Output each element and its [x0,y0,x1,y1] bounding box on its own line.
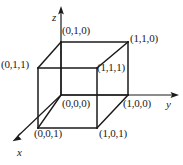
vertex-label-111: (1,1,1) [97,62,125,73]
vertex-label-101: (1,0,1) [99,128,127,139]
vertex-label-100: (1,0,0) [123,98,151,109]
unit-cube-figure: z y x (0,1,0) (1,1,0) (0,1,1) (1,1,1) (0… [0,0,183,165]
cube-diagram-svg [0,0,183,165]
vertex-label-110: (1,1,0) [130,33,158,44]
y-axis-label: y [166,99,171,110]
vertex-label-011: (0,1,1) [1,59,29,70]
cube-edges [38,42,128,128]
x-axis-label: x [17,147,22,158]
vertex-label-001: (0,0,1) [34,128,62,139]
vertex-label-000: (0,0,0) [62,98,90,109]
vertex-label-010: (0,1,0) [62,25,90,36]
edge-top-left [38,42,61,68]
edge-bottom-left [38,95,61,128]
z-axis-label: z [52,12,56,23]
